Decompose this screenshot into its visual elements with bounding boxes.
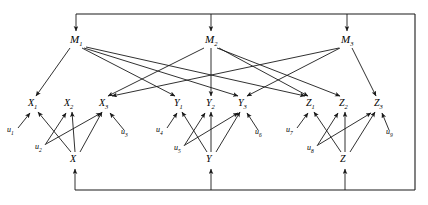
edge-u1-X1	[18, 113, 30, 128]
edge-Y-Y1	[182, 112, 207, 152]
edge-Y-Y3	[216, 112, 240, 152]
node-u4: u4	[156, 126, 163, 136]
node-u6: u6	[255, 128, 262, 138]
edge-u8-Z2	[317, 113, 338, 146]
node-u5: u5	[174, 144, 181, 154]
node-u8: u8	[307, 144, 314, 154]
node-X2: X2	[64, 98, 73, 111]
edge-X-X2	[72, 112, 75, 152]
edge-X-X3	[80, 112, 102, 152]
node-X3: X3	[99, 98, 108, 111]
node-Z1: Z1	[306, 98, 315, 111]
node-u7: u7	[286, 126, 293, 136]
edge-M2-Z1	[219, 48, 308, 96]
node-Z3: Z3	[374, 98, 383, 111]
edge-M3-Z3	[352, 48, 376, 96]
node-u1: u1	[7, 126, 14, 136]
node-Y-latent: Y	[206, 154, 212, 164]
node-Z2: Z2	[339, 98, 348, 111]
node-X1: X1	[28, 98, 37, 111]
node-M3: M3	[341, 34, 353, 48]
node-u3: u3	[121, 128, 128, 138]
edge-X-X1	[38, 112, 71, 152]
node-u9: u9	[386, 128, 393, 138]
edge-u4-Y1	[167, 113, 177, 128]
node-M2: M2	[205, 34, 217, 48]
edge-M3-Y3	[247, 48, 340, 96]
node-X-latent: X	[70, 154, 76, 164]
edge-M1-Z1	[86, 47, 305, 96]
node-M1: M1	[70, 34, 82, 48]
edge-M3-X3	[112, 48, 339, 96]
diagram-canvas: M1 M2 M3 X1 X2 X3 Y1 Y2 Y3 Z1 Z2 Z3 X Y …	[0, 0, 428, 205]
node-Y3: Y3	[238, 98, 247, 111]
node-Y2: Y2	[206, 98, 215, 111]
node-Z-latent: Z	[340, 154, 346, 164]
edge-Z-Z1	[314, 112, 341, 152]
edge-u7-Z1	[297, 113, 308, 128]
edge-u2-X2	[45, 113, 66, 145]
edge-u5-Y2	[184, 113, 205, 146]
node-u2: u2	[35, 143, 42, 153]
edge-M1-X1	[36, 48, 70, 96]
node-Y1: Y1	[174, 98, 183, 111]
edge-M2-Z2	[217, 48, 340, 96]
